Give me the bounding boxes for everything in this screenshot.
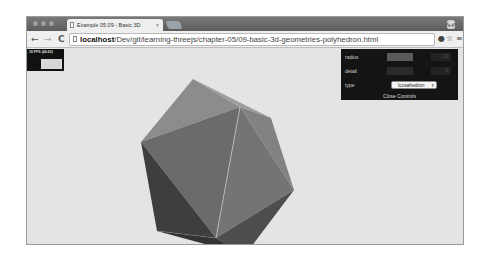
webgl-viewport[interactable]: 30 FPS (44-60) radius 10 detail 0 type I…	[27, 49, 463, 245]
extension-icon[interactable]: ●	[438, 33, 445, 45]
browser-toolbar: ← → C localhost/Dev/git/learning-threejs…	[27, 31, 463, 48]
close-window-button[interactable]	[33, 21, 38, 26]
type-select[interactable]: Icosahedron ⇕	[391, 81, 437, 89]
title-bar: Example 05.09 - Basic 3D ×	[27, 17, 463, 31]
page-icon	[73, 36, 77, 42]
close-controls-button[interactable]: Close Controls	[341, 92, 458, 100]
back-button[interactable]: ←	[31, 33, 39, 45]
user-profile-icon[interactable]	[445, 18, 457, 30]
radius-row: radius	[345, 51, 359, 63]
browser-window: Example 05.09 - Basic 3D × ← → C localho…	[26, 16, 464, 245]
tab-close-icon[interactable]: ×	[156, 19, 159, 31]
tab-title: Example 05.09 - Basic 3D	[77, 22, 141, 28]
type-selected-value: Icosahedron	[398, 83, 424, 88]
detail-slider[interactable]	[387, 67, 413, 75]
url-path: /Dev/git/learning-threejs/chapter-05/09-…	[114, 35, 378, 44]
radius-label: radius	[345, 54, 359, 60]
url-host: localhost	[80, 35, 114, 44]
tab-example[interactable]: Example 05.09 - Basic 3D ×	[67, 19, 163, 31]
fps-stats-panel[interactable]: 30 FPS (44-60)	[27, 49, 64, 71]
select-arrows-icon: ⇕	[431, 82, 434, 89]
menu-icon[interactable]: ≡	[456, 33, 463, 45]
radius-slider[interactable]	[387, 53, 413, 61]
dat-gui-controls: radius 10 detail 0 type Icosahedron ⇕ Cl…	[341, 49, 458, 100]
minimize-window-button[interactable]	[41, 21, 46, 26]
new-tab-button[interactable]	[166, 21, 183, 29]
detail-label: detail	[345, 68, 357, 74]
address-bar[interactable]: localhost/Dev/git/learning-threejs/chapt…	[69, 33, 435, 46]
bookmark-star-icon[interactable]: ☆	[446, 33, 453, 45]
forward-button[interactable]: →	[44, 33, 52, 45]
detail-value[interactable]: 0	[431, 67, 451, 75]
maximize-window-button[interactable]	[49, 21, 54, 26]
type-row: type	[345, 79, 354, 91]
type-label: type	[345, 82, 354, 88]
radius-value[interactable]: 10	[431, 53, 451, 61]
page-icon	[70, 22, 74, 28]
reload-button[interactable]: C	[58, 33, 65, 45]
fps-graph	[41, 59, 62, 69]
detail-row: detail	[345, 65, 357, 77]
fps-label: 30 FPS (44-60)	[29, 50, 53, 54]
